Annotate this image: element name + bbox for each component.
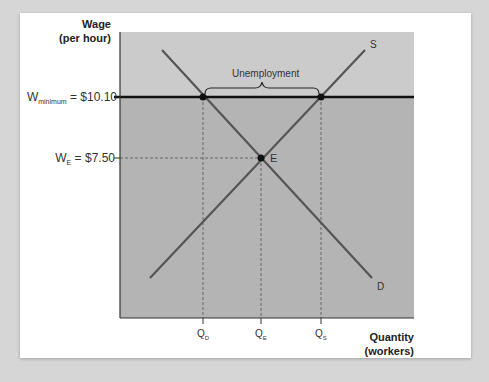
x-axis-title-line1: Quantity (369, 331, 414, 343)
chart-svg (0, 0, 489, 382)
plot-area-below-min-wage (120, 97, 414, 318)
qs-label: QS (315, 328, 327, 341)
y-axis-title-line2: (per hour) (59, 32, 111, 44)
equilibrium-label: E (270, 152, 277, 164)
y-axis-title-line1: Wage (82, 18, 111, 30)
qd-label: QD (197, 328, 209, 341)
qe-label: QE (255, 328, 267, 341)
equilibrium-point (258, 155, 265, 162)
we-label: WE = $7.50 (55, 151, 115, 166)
qd-intersection-point (200, 94, 207, 101)
demand-label: D (377, 281, 384, 292)
x-axis-title-line2: (workers) (364, 345, 414, 357)
supply-label: S (370, 39, 377, 50)
qs-intersection-point (318, 94, 325, 101)
unemployment-label: Unemployment (232, 68, 299, 79)
wmin-label: Wminimum = $10.10 (27, 90, 117, 105)
